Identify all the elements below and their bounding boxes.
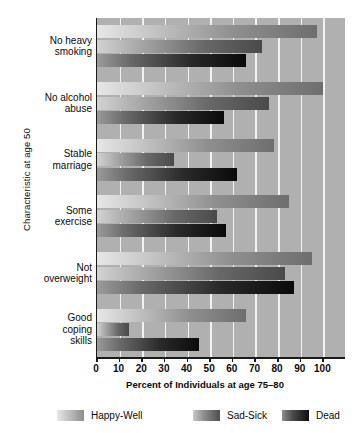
category-label-line: abuse bbox=[24, 103, 92, 115]
category-label-some-exercise: Someexercise bbox=[24, 205, 92, 228]
bar-happy-well-not-overweight bbox=[97, 252, 312, 265]
legend-swatch-icon bbox=[193, 410, 220, 421]
gridline-70 bbox=[255, 18, 257, 358]
legend-label: Dead bbox=[316, 410, 340, 421]
x-tick-20 bbox=[141, 357, 143, 362]
legend-item-happy-well[interactable]: Happy-Well bbox=[57, 410, 143, 421]
category-label-good-coping-skills: Goodcopingskills bbox=[24, 312, 92, 347]
legend-swatch-icon bbox=[57, 410, 84, 421]
category-label-not-overweight: Notoverweight bbox=[24, 262, 92, 285]
legend-label: Sad-Sick bbox=[227, 410, 267, 421]
bar-sad-sick-no-alcohol-abuse bbox=[97, 97, 269, 110]
bar-dead-no-alcohol-abuse bbox=[97, 111, 224, 124]
bar-dead-good-coping-skills bbox=[97, 338, 199, 351]
category-label-line: smoking bbox=[24, 46, 92, 58]
bar-sad-sick-no-heavy-smoking bbox=[97, 40, 262, 53]
x-tick-0 bbox=[96, 357, 98, 362]
legend: Happy-WellSad-SickDead bbox=[0, 410, 358, 432]
bar-dead-not-overweight bbox=[97, 281, 294, 294]
bar-happy-well-good-coping-skills bbox=[97, 309, 246, 322]
bar-dead-no-heavy-smoking bbox=[97, 54, 246, 67]
category-label-stable-marriage: Stablemarriage bbox=[24, 148, 92, 171]
gridline-100 bbox=[323, 18, 325, 358]
bar-sad-sick-good-coping-skills bbox=[97, 323, 129, 336]
legend-item-sad-sick[interactable]: Sad-Sick bbox=[193, 410, 267, 421]
category-label-line: Not bbox=[24, 262, 92, 274]
bar-happy-well-no-heavy-smoking bbox=[97, 25, 317, 38]
bar-happy-well-no-alcohol-abuse bbox=[97, 82, 323, 95]
category-label-line: No heavy bbox=[24, 35, 92, 47]
bar-sad-sick-stable-marriage bbox=[97, 153, 174, 166]
legend-label: Happy-Well bbox=[91, 410, 143, 421]
gridline-60 bbox=[233, 18, 235, 358]
x-tick-40 bbox=[187, 357, 189, 362]
bar-dead-stable-marriage bbox=[97, 168, 237, 181]
gridline-50 bbox=[210, 18, 212, 358]
category-label-line: skills bbox=[24, 335, 92, 347]
plot-area bbox=[96, 18, 345, 358]
gridline-30 bbox=[165, 18, 167, 358]
category-label-column: No heavysmokingNo alcoholabuseStablemarr… bbox=[24, 18, 92, 358]
gridline-40 bbox=[188, 18, 190, 358]
category-label-line: exercise bbox=[24, 216, 92, 228]
bar-sad-sick-some-exercise bbox=[97, 210, 217, 223]
x-tick-70 bbox=[254, 357, 256, 362]
x-axis-line bbox=[96, 357, 345, 359]
gridline-90 bbox=[301, 18, 303, 358]
category-label-line: Good bbox=[24, 312, 92, 324]
bar-happy-well-some-exercise bbox=[97, 195, 289, 208]
x-tick-90 bbox=[300, 357, 302, 362]
category-label-line: No alcohol bbox=[24, 92, 92, 104]
bar-happy-well-stable-marriage bbox=[97, 139, 274, 152]
category-label-no-heavy-smoking: No heavysmoking bbox=[24, 35, 92, 58]
x-axis-title: Percent of Individuals at age 75–80 bbox=[60, 379, 350, 390]
x-tick-30 bbox=[164, 357, 166, 362]
legend-item-dead[interactable]: Dead bbox=[282, 410, 340, 421]
category-label-line: coping bbox=[24, 324, 92, 336]
gridline-20 bbox=[142, 18, 144, 358]
category-label-line: Some bbox=[24, 205, 92, 217]
x-tick-10 bbox=[119, 357, 121, 362]
x-tick-80 bbox=[277, 357, 279, 362]
gridline-80 bbox=[278, 18, 280, 358]
legend-swatch-icon bbox=[282, 410, 309, 421]
category-label-line: marriage bbox=[24, 160, 92, 172]
bar-dead-some-exercise bbox=[97, 224, 226, 237]
category-label-line: Stable bbox=[24, 148, 92, 160]
x-tick-50 bbox=[209, 357, 211, 362]
bar-sad-sick-not-overweight bbox=[97, 267, 285, 280]
bar-chart: Characteristic at age 50 No heavysmoking… bbox=[0, 0, 358, 433]
category-label-line: overweight bbox=[24, 273, 92, 285]
x-tick-label-100: 100 bbox=[307, 363, 337, 374]
x-tick-100 bbox=[322, 357, 324, 362]
x-tick-60 bbox=[232, 357, 234, 362]
gridline-10 bbox=[120, 18, 122, 358]
category-label-no-alcohol-abuse: No alcoholabuse bbox=[24, 92, 92, 115]
